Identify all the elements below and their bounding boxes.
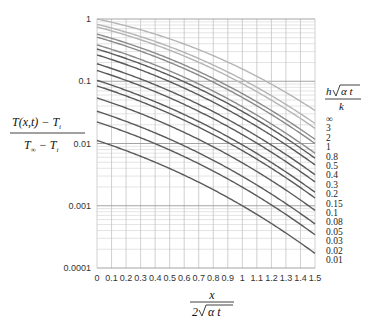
legend-entry: 0.01 (326, 255, 343, 265)
x-tick-label: 0.1 (105, 273, 118, 283)
svg-text:α t: α t (208, 305, 221, 319)
svg-text:T(x,t) − Ti: T(x,t) − Ti (12, 115, 61, 131)
chart: 10.10.010.0010.0001 00.10.20.30.40.50.60… (0, 0, 370, 332)
svg-text:α t: α t (341, 85, 354, 97)
x-tick-label: 0.4 (149, 273, 162, 283)
y-tick-label: 0.0001 (63, 263, 91, 273)
x-tick-label: 1.2 (265, 273, 278, 283)
y-tick-labels: 10.10.010.0010.0001 (63, 14, 91, 273)
x-tick-label: 1 (240, 273, 245, 283)
x-tick-label: 0.8 (207, 273, 220, 283)
legend: ∞3210.80.50.40.30.20.150.10.080.050.030.… (326, 114, 343, 265)
curve-0.2 (97, 64, 315, 175)
legend-title: h α t k (325, 85, 361, 112)
x-tick-label: 1.4 (294, 273, 307, 283)
x-tick-label: 0 (94, 273, 99, 283)
x-tick-label: 1.1 (251, 273, 264, 283)
curve-2 (97, 27, 315, 128)
x-axis-label: x 2 α t (190, 288, 234, 319)
x-tick-label: 0.7 (192, 273, 205, 283)
x-tick-label: 1.3 (280, 273, 293, 283)
x-tick-label: 0.6 (178, 273, 191, 283)
x-tick-label: 0.2 (120, 273, 133, 283)
y-tick-label: 0.1 (78, 76, 91, 86)
svg-text:h: h (326, 85, 332, 97)
y-tick-label: 0.001 (68, 201, 91, 211)
svg-text:T∞ − Ti: T∞ − Ti (24, 138, 58, 154)
y-tick-label: 1 (86, 14, 91, 24)
svg-text:x: x (208, 288, 215, 302)
curve-1 (97, 34, 315, 139)
curve-0.02 (97, 122, 315, 235)
svg-text:2: 2 (192, 305, 198, 319)
svg-text:k: k (339, 100, 345, 112)
y-tick-label: 0.01 (73, 139, 91, 149)
x-tick-label: 1.5 (309, 273, 322, 283)
x-tick-label: 0.3 (134, 273, 147, 283)
x-tick-labels: 00.10.20.30.40.50.60.70.80.911.11.21.31.… (94, 273, 321, 283)
x-tick-label: 0.5 (163, 273, 176, 283)
curves (97, 19, 315, 253)
x-tick-label: 0.9 (222, 273, 235, 283)
